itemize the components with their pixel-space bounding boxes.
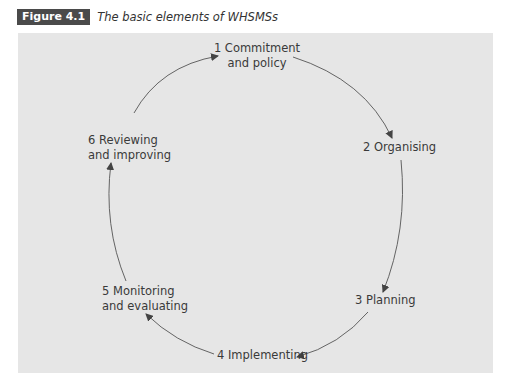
node-line: and improving (88, 148, 171, 163)
node-commitment-policy: 1 Commitment and policy (212, 41, 302, 70)
node-line: and policy (212, 56, 302, 71)
node-line: 1 Commitment (212, 41, 302, 56)
node-line: 5 Monitoring (102, 284, 188, 299)
node-planning: 3 Planning (355, 293, 416, 308)
arrow-4-to-5 (146, 314, 214, 354)
node-implementing: 4 Implementing (217, 348, 308, 363)
node-line: 2 Organising (363, 140, 436, 155)
node-line: 4 Implementing (217, 348, 308, 363)
node-monitoring-evaluating: 5 Monitoring and evaluating (102, 284, 188, 313)
node-organising: 2 Organising (363, 140, 436, 155)
arrow-1-to-2 (293, 57, 392, 138)
node-line: 6 Reviewing (88, 133, 171, 148)
arrow-6-to-1 (134, 56, 218, 113)
arrow-2-to-3 (383, 160, 403, 292)
arrow-5-to-6 (109, 163, 126, 281)
node-line: and evaluating (102, 299, 188, 314)
node-line: 3 Planning (355, 293, 416, 308)
node-reviewing-improving: 6 Reviewing and improving (88, 133, 171, 162)
